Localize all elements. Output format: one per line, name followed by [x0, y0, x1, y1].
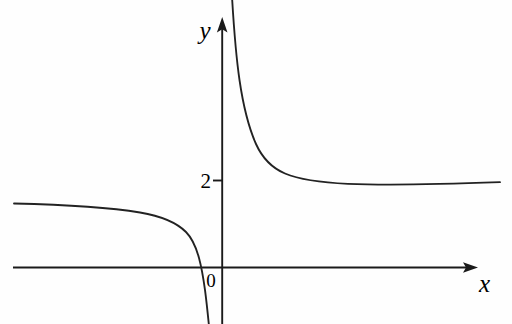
- curve-right-branch: [232, 0, 500, 185]
- curve-left-branch: [14, 204, 209, 324]
- origin-label: 0: [203, 269, 219, 293]
- x-axis-label: x: [479, 269, 505, 299]
- y-axis-label: y: [193, 14, 217, 48]
- x-axis: [13, 262, 478, 273]
- graph-figure: y x 2 0: [0, 0, 512, 324]
- y-tick-label-2: 2: [193, 168, 211, 194]
